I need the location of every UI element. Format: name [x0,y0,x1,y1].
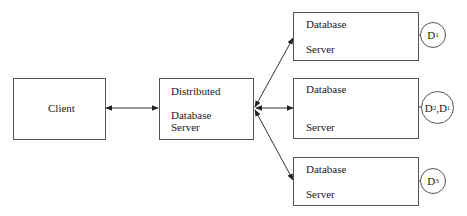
data-store-d2-d1: D2,D1 [421,91,454,124]
data-store-d3: D3 [420,168,446,194]
d2d1-main2: D [439,102,447,114]
database-server-3-box: Database Server [293,157,419,206]
db3-label-line1: Database [306,163,346,175]
distributed-db3-arrow [255,110,293,180]
d3-main: D [427,175,435,187]
db1-label-line1: Database [306,18,346,30]
db2-label-line1: Database [306,83,346,95]
d1-sub: 1 [435,31,439,39]
database-server-2-box: Database Server [293,78,419,139]
client-label: Client [48,102,75,114]
d2d1-main1: D [425,102,433,114]
d3-sub: 3 [435,177,439,185]
distributed-label-line3: Server [171,121,200,133]
d2d1-sub2: 1 [447,104,451,112]
data-store-d1: D1 [420,22,446,48]
d1-main: D [427,29,435,41]
db3-label-line2: Server [306,188,335,200]
distributed-label-line1: Distributed [171,85,221,97]
client-box: Client [13,78,106,140]
db2-label-line2: Server [306,121,335,133]
distributed-label-line2: Database [171,109,211,121]
distributed-database-server-box: Distributed Database Server [159,78,254,140]
db1-label-line2: Server [306,43,335,55]
distributed-db1-arrow [255,38,293,107]
database-server-1-box: Database Server [293,12,419,61]
